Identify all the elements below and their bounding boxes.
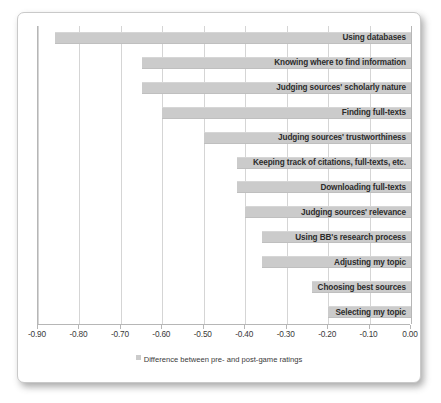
bar-row: Knowing where to find information [38, 51, 410, 76]
bar-category-label: Using BB's research process [293, 230, 408, 246]
bar-row: Judging sources' trustworthiness [38, 126, 410, 151]
bar-row: Selecting my topic [38, 300, 410, 325]
bar-category-label: Judging sources' trustworthiness [276, 130, 408, 146]
plot-area: Using databasesKnowing where to find inf… [37, 26, 410, 325]
bar-category-label: Knowing where to find information [272, 55, 408, 71]
x-axis: -0.90-0.80-0.70-0.60-0.50-0.40-0.30-0.20… [37, 329, 410, 343]
bar-category-label: Keeping track of citations, full-texts, … [251, 155, 408, 171]
bar-category-label: Using databases [340, 30, 408, 46]
bar-row: Judging sources' scholarly nature [38, 76, 410, 101]
bar-category-label: Choosing best sources [316, 280, 408, 296]
chart-card: Using databasesKnowing where to find inf… [17, 12, 421, 383]
bar-row: Judging sources' relevance [38, 200, 410, 225]
bar-row: Choosing best sources [38, 275, 410, 300]
bar-row: Using BB's research process [38, 225, 410, 250]
bar-category-label: Selecting my topic [333, 305, 408, 321]
bar-category-label: Downloading full-texts [318, 180, 408, 196]
bar-category-label: Judging sources' scholarly nature [274, 80, 408, 96]
chart-legend: Difference between pre- and post-game ra… [18, 354, 420, 364]
legend-label: Difference between pre- and post-game ra… [144, 355, 303, 364]
bar-category-label: Adjusting my topic [332, 255, 408, 271]
bar-row: Using databases [38, 26, 410, 51]
legend-swatch-icon [136, 355, 141, 360]
bar-row: Downloading full-texts [38, 176, 410, 201]
x-tick-label: 0.00 [385, 329, 435, 339]
bar-row: Finding full-texts [38, 101, 410, 126]
bar-category-label: Finding full-texts [340, 105, 408, 121]
gridline-0.00 [411, 26, 412, 324]
bar-row: Adjusting my topic [38, 250, 410, 275]
bar-row: Keeping track of citations, full-texts, … [38, 151, 410, 176]
bar-category-label: Judging sources' relevance [299, 205, 408, 221]
